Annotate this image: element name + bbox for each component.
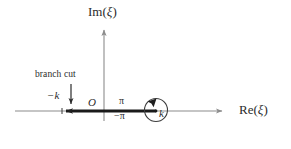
- branch-cut-annotation: branch cut: [35, 70, 76, 80]
- phase-above-label: π: [119, 96, 124, 106]
- real-axis-label: Re(ξ): [239, 103, 268, 116]
- contour-direction-arrowhead: [148, 99, 157, 108]
- real-axis-label-fn: Re: [239, 102, 253, 117]
- imaginary-axis-label: Im(ξ): [88, 5, 117, 18]
- imaginary-axis-label-paren-close: ): [112, 4, 116, 19]
- real-axis-label-paren-close: ): [263, 102, 267, 117]
- imaginary-axis-label-fn: Im: [88, 4, 102, 19]
- left-branch-point-label: −k: [47, 90, 59, 101]
- phase-below-label: −π: [114, 111, 125, 121]
- complex-plane-branch-cut-figure: Im(ξ) Re(ξ) −k O π −π k branch cut: [0, 0, 291, 149]
- origin-label: O: [88, 97, 96, 108]
- right-branch-point-marker: [155, 110, 158, 113]
- right-branch-point-label: k: [159, 108, 164, 119]
